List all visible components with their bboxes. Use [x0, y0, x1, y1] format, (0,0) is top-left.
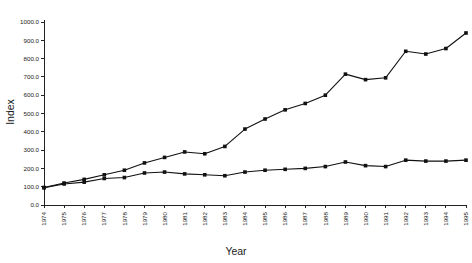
x-tick-label: 1989	[342, 211, 349, 225]
series-data-point	[163, 170, 167, 174]
series-data-point	[163, 156, 167, 160]
x-axis-title: Year	[225, 245, 247, 257]
y-tick-label: 600.0	[24, 91, 40, 98]
x-tick-label: 1985	[261, 211, 268, 225]
x-tick-label: 1983	[221, 211, 228, 225]
y-tick-label: 300.0	[24, 146, 40, 153]
x-tick-label: 1986	[281, 211, 288, 225]
series-data-point	[464, 31, 468, 35]
series-data-point	[263, 117, 267, 121]
x-axis: 1974197519761977197819791980198119821983…	[40, 205, 469, 226]
chart-series-group	[42, 31, 468, 189]
y-tick-label: 400.0	[24, 128, 40, 135]
x-tick-label: 1975	[60, 211, 67, 225]
series-data-point	[464, 158, 468, 162]
series-data-point	[183, 150, 187, 154]
x-tick-label: 1994	[442, 211, 449, 225]
x-tick-label: 1984	[241, 211, 248, 225]
series-data-point	[143, 161, 147, 165]
y-axis: 0.0100.0200.0300.0400.0500.0600.0700.080…	[20, 18, 44, 208]
series-data-point	[223, 174, 227, 178]
series-data-point	[203, 152, 207, 156]
series-data-point	[444, 47, 448, 51]
series-data-point	[123, 168, 127, 172]
y-tick-label: 800.0	[24, 55, 40, 62]
x-tick-label: 1980	[161, 211, 168, 225]
series-data-point	[123, 176, 127, 180]
series-data-point	[82, 180, 86, 184]
series-data-point	[203, 173, 207, 177]
x-tick-label: 1977	[100, 211, 107, 225]
series-data-point	[303, 102, 307, 106]
y-tick-label: 700.0	[24, 73, 40, 80]
x-tick-label: 1990	[362, 211, 369, 225]
x-tick-label: 1976	[80, 211, 87, 225]
series-data-point	[42, 186, 46, 190]
series-data-point	[364, 164, 368, 168]
series-data-point	[424, 159, 428, 163]
y-tick-label: 900.0	[24, 37, 40, 44]
series-data-point	[384, 76, 388, 80]
series-data-point	[424, 52, 428, 56]
x-tick-label: 1978	[121, 211, 128, 225]
series-data-point	[143, 171, 147, 175]
series-data-point	[102, 177, 106, 181]
series-data-point	[404, 158, 408, 162]
series-data-point	[62, 182, 66, 186]
series-data-point	[384, 165, 388, 169]
series-data-point	[183, 172, 187, 176]
x-tick-label: 1981	[181, 211, 188, 225]
x-tick-label: 1987	[301, 211, 308, 225]
y-tick-label: 200.0	[24, 165, 40, 172]
series-data-point	[364, 78, 368, 82]
series-data-point	[102, 173, 106, 177]
series-data-point	[344, 72, 348, 76]
series-data-point	[243, 127, 247, 131]
x-tick-label: 1974	[40, 211, 47, 225]
series-data-point	[444, 159, 448, 163]
x-tick-label: 1992	[402, 211, 409, 225]
y-tick-label: 1000.0	[20, 18, 39, 25]
series-data-point	[223, 145, 227, 149]
x-tick-label: 1979	[141, 211, 148, 225]
line-chart: 0.0100.0200.0300.0400.0500.0600.0700.080…	[0, 0, 472, 263]
series-data-point	[324, 93, 328, 97]
x-tick-label: 1993	[422, 211, 429, 225]
series-data-point	[263, 168, 267, 172]
series-data-point	[303, 167, 307, 171]
y-tick-label: 0.0	[30, 201, 39, 208]
x-tick-label: 1982	[201, 211, 208, 225]
x-tick-label: 1991	[382, 211, 389, 225]
series-data-point	[243, 170, 247, 174]
series-data-point	[283, 168, 287, 172]
y-tick-label: 100.0	[24, 183, 40, 190]
series-data-point	[344, 160, 348, 164]
y-tick-label: 500.0	[24, 110, 40, 117]
series-line	[44, 33, 466, 188]
series-data-point	[283, 108, 287, 112]
x-tick-label: 1988	[322, 211, 329, 225]
x-tick-label: 1995	[462, 211, 469, 225]
y-axis-title: Index	[4, 98, 16, 124]
chart-canvas: 0.0100.0200.0300.0400.0500.0600.0700.080…	[0, 0, 472, 263]
series-data-point	[404, 49, 408, 53]
series-data-point	[324, 165, 328, 169]
